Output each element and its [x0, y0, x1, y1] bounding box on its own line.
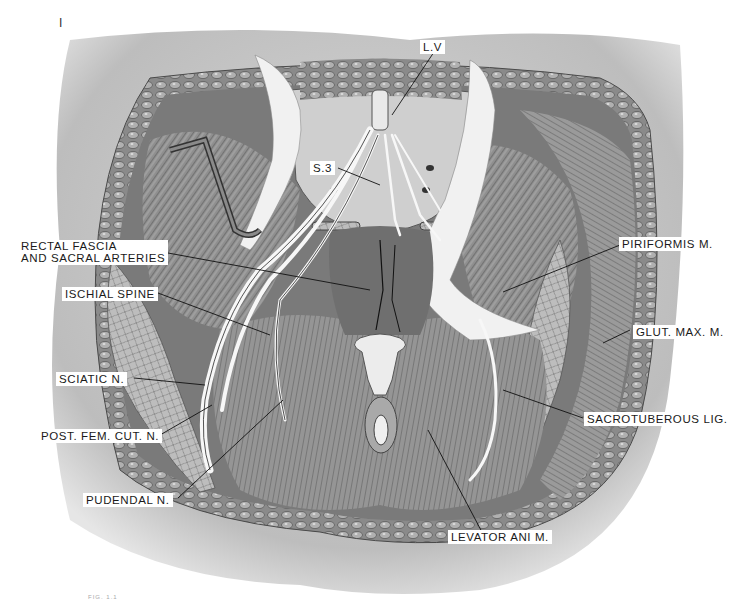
rectal-fascia	[329, 226, 433, 335]
label-rectal-fascia-line1: RECTAL FASCIA	[21, 241, 165, 253]
label-levator-ani: LEVATOR ANI M.	[448, 530, 552, 544]
lumbar-vertebra	[372, 90, 388, 130]
label-s3: S.3	[310, 161, 335, 175]
figure-corner-mark: I	[59, 16, 62, 30]
pelvis-dissection-drawing	[0, 0, 739, 602]
anus-inner	[374, 415, 388, 445]
label-l5-vertebra: L.V	[420, 40, 445, 54]
label-post-fem-cut-nerve: POST. FEM. CUT. N.	[38, 429, 162, 443]
label-sacrotuberous-ligament: SACROTUBEROUS LIG.	[584, 412, 731, 426]
anatomy-illustration	[0, 0, 739, 602]
label-rectal-fascia: RECTAL FASCIA AND SACRAL ARTERIES	[18, 240, 168, 265]
label-glut-max: GLUT. MAX. M.	[633, 325, 727, 339]
label-sciatic-nerve: SCIATIC N.	[56, 372, 127, 386]
figure-caption-faint: FIG. 1.1	[88, 594, 118, 600]
label-rectal-fascia-line2: AND SACRAL ARTERIES	[21, 253, 165, 265]
label-pudendal-nerve: PUDENDAL N.	[83, 493, 173, 507]
sacral-foramen	[426, 165, 434, 171]
label-ischial-spine: ISCHIAL SPINE	[62, 287, 158, 301]
label-piriformis: PIRIFORMIS M.	[619, 237, 716, 251]
